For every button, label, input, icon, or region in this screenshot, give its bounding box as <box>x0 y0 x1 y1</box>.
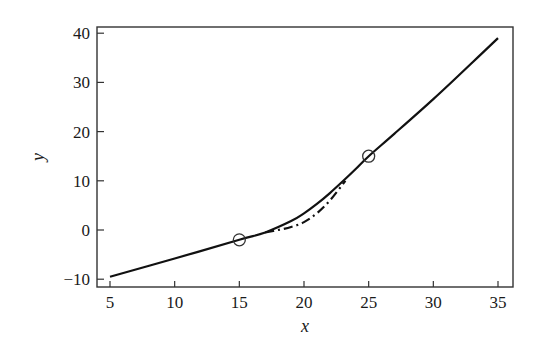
series-layer <box>110 38 498 277</box>
y-tick-label: 0 <box>82 221 91 240</box>
x-tick-label: 20 <box>296 293 313 312</box>
marker-layer <box>233 150 374 246</box>
line-chart: 5101520253035 −10010203040 x y <box>0 0 539 351</box>
y-tick-label: 10 <box>73 172 90 191</box>
x-tick-label: 10 <box>166 293 183 312</box>
plot-frame <box>97 27 513 287</box>
series-solid-line <box>110 38 498 277</box>
x-tick-label: 15 <box>231 293 248 312</box>
x-axis-label: x <box>300 316 309 336</box>
x-tick-label: 30 <box>425 293 442 312</box>
x-axis-ticks: 5101520253035 <box>106 281 507 312</box>
x-tick-label: 35 <box>490 293 507 312</box>
y-tick-label: 30 <box>73 73 90 92</box>
y-axis-ticks: −10010203040 <box>63 24 104 289</box>
y-tick-label: −10 <box>63 270 90 289</box>
y-tick-label: 20 <box>73 123 90 142</box>
x-tick-label: 25 <box>360 293 377 312</box>
y-tick-label: 40 <box>73 24 90 43</box>
y-axis-label: y <box>28 153 48 163</box>
x-tick-label: 5 <box>106 293 115 312</box>
